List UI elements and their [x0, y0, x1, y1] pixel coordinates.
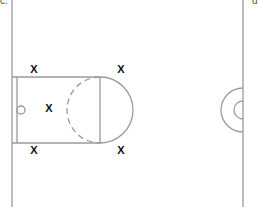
player-marker: X — [30, 64, 37, 75]
player-marker: X — [117, 145, 124, 156]
half-court-diagram — [0, 0, 258, 215]
player-marker: X — [45, 103, 52, 114]
player-marker: X — [117, 64, 124, 75]
free-throw-arc-solid — [100, 77, 133, 143]
player-marker: X — [30, 145, 37, 156]
center-circle-outer — [221, 88, 243, 132]
center-circle-inner — [234, 101, 243, 119]
free-throw-arc-dashed — [67, 77, 100, 143]
rim-icon — [17, 106, 25, 114]
